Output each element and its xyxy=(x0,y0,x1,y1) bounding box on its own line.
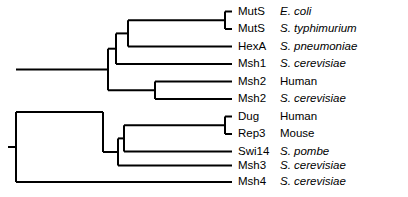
leaf-species-name: S. cerevisiae xyxy=(280,90,346,108)
leaf-species-name: S. typhimurium xyxy=(280,20,357,38)
leaf-gene-name: Msh3 xyxy=(238,157,278,175)
leaf-label-list: MutSE. coliMutSS. typhimuriumHexAS. pneu… xyxy=(0,0,408,197)
phylogenetic-tree-figure: MutSE. coliMutSS. typhimuriumHexAS. pneu… xyxy=(0,0,408,197)
leaf-species-name: S. cerevisiae xyxy=(280,173,346,191)
leaf-species-name: Mouse xyxy=(280,125,315,143)
leaf-gene-name: Msh2 xyxy=(238,73,278,91)
leaf-species-name: E. coli xyxy=(280,3,311,21)
leaf-species-name: S. cerevisiae xyxy=(280,157,346,175)
leaf-gene-name: Msh2 xyxy=(238,90,278,108)
leaf-species-name: Human xyxy=(280,108,317,126)
leaf-gene-name: MutS xyxy=(238,20,278,38)
leaf-gene-name: MutS xyxy=(238,3,278,21)
leaf-species-name: S. pneumoniae xyxy=(280,38,357,56)
leaf-gene-name: Msh4 xyxy=(238,173,278,191)
leaf-gene-name: Rep3 xyxy=(238,125,278,143)
leaf-gene-name: Msh1 xyxy=(238,55,278,73)
leaf-gene-name: HexA xyxy=(238,38,278,56)
leaf-species-name: S. cerevisiae xyxy=(280,55,346,73)
leaf-gene-name: Dug xyxy=(238,108,278,126)
leaf-species-name: Human xyxy=(280,73,317,91)
